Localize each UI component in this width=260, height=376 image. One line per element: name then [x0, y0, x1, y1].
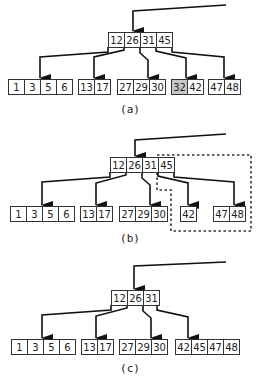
key-value: 47: [209, 342, 222, 353]
key-value: 29: [137, 209, 150, 220]
child-pointer-arrow: [142, 172, 150, 205]
panel-label: (b): [120, 232, 140, 245]
key-value: 47: [215, 209, 228, 220]
key-value: 6: [64, 342, 70, 353]
leaf-node: 1356: [11, 207, 75, 222]
leaf-node: 1317: [81, 207, 113, 222]
leaf-node: 272930: [120, 207, 168, 222]
key-value: 45: [158, 35, 171, 46]
root-pointer-arrow: [133, 5, 226, 31]
diagram-canvas: 122631451356131727293032424748(a) 122631…: [0, 0, 260, 376]
key-value: 31: [142, 35, 155, 46]
key-value: 29: [137, 342, 150, 353]
key-value: 48: [225, 342, 238, 353]
leaf-node: 4748: [214, 207, 246, 222]
root-node: 122631: [112, 291, 160, 306]
key-value: 17: [98, 209, 111, 220]
key-value: 32: [173, 82, 186, 93]
leaf-node: 1356: [9, 80, 73, 95]
leaf-node: 272930: [120, 340, 168, 355]
key-value: 48: [231, 209, 244, 220]
child-pointer-arrow: [140, 47, 148, 78]
key-value: 3: [29, 82, 35, 93]
key-value: 42: [182, 209, 195, 220]
child-pointer-arrow: [42, 305, 111, 338]
leaf-node: 1317: [82, 340, 114, 355]
key-value: 3: [32, 342, 38, 353]
key-value: 27: [121, 209, 134, 220]
key-value: 30: [153, 209, 166, 220]
panel-c: 1226311356131727293042454748(c): [12, 262, 240, 375]
panel-label: (a): [120, 103, 140, 116]
btree-deletion-diagram: 122631451356131727293032424748(a) 122631…: [0, 0, 260, 376]
key-value: 27: [119, 82, 132, 93]
key-value: 13: [83, 342, 96, 353]
key-value: 1: [16, 342, 22, 353]
key-value: 6: [61, 82, 67, 93]
key-value: 12: [113, 293, 126, 304]
leaf-node: 272930: [118, 80, 166, 95]
key-value: 12: [112, 160, 125, 171]
root-pointer-arrow: [134, 262, 226, 289]
key-value: 5: [47, 209, 53, 220]
leaf-node: 42454748: [176, 340, 240, 355]
key-value: 5: [48, 342, 54, 353]
key-value: 13: [80, 82, 93, 93]
key-value: 26: [128, 160, 141, 171]
key-value: 5: [45, 82, 51, 93]
key-value: 42: [189, 82, 202, 93]
key-value: 45: [193, 342, 206, 353]
child-pointer-arrow: [42, 172, 110, 205]
key-value: 6: [63, 209, 69, 220]
key-value: 30: [151, 82, 164, 93]
key-value: 48: [226, 82, 239, 93]
key-value: 29: [135, 82, 148, 93]
panel-a: 122631451356131727293032424748(a): [9, 5, 241, 116]
root-node: 12263145: [109, 33, 173, 48]
panel-label: (c): [120, 362, 140, 375]
key-value: 26: [126, 35, 139, 46]
leaf-node: 1356: [12, 340, 76, 355]
key-value: 17: [99, 342, 112, 353]
child-pointer-arrow: [157, 305, 188, 338]
child-pointer-arrow: [158, 172, 188, 205]
leaf-node: 1317: [79, 80, 111, 95]
key-value: 3: [31, 209, 37, 220]
child-pointer-arrow: [156, 47, 186, 78]
key-value: 45: [160, 160, 173, 171]
key-value: 31: [145, 293, 158, 304]
child-pointer-arrow: [143, 305, 151, 338]
key-value: 47: [210, 82, 223, 93]
leaf-node: 4748: [209, 80, 241, 95]
key-value: 1: [15, 209, 21, 220]
leaf-node: 3242: [172, 80, 204, 95]
key-value: 1: [13, 82, 19, 93]
key-value: 30: [153, 342, 166, 353]
root-node: 12263145: [111, 158, 175, 173]
child-pointer-arrow: [94, 47, 124, 78]
panel-b: 1226314513561317272930424748(b): [11, 134, 252, 245]
key-value: 26: [129, 293, 142, 304]
child-pointer-arrow: [40, 47, 108, 78]
root-pointer-arrow: [135, 134, 226, 156]
key-value: 17: [96, 82, 109, 93]
key-value: 42: [177, 342, 190, 353]
key-value: 31: [144, 160, 157, 171]
child-pointer-arrow: [174, 172, 234, 205]
leaf-node: 42: [181, 207, 197, 222]
key-value: 13: [82, 209, 95, 220]
key-value: 27: [121, 342, 134, 353]
child-pointer-arrow: [172, 47, 224, 78]
key-value: 12: [110, 35, 123, 46]
